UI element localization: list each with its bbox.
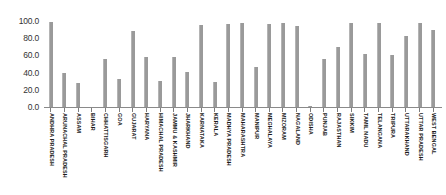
x-axis-label: UTTAR PRADESH <box>417 113 422 161</box>
x-axis-label: TRIPURA <box>390 113 395 138</box>
bar <box>308 106 312 107</box>
bar-slot <box>58 21 72 107</box>
plot-area <box>44 21 440 107</box>
x-axis-label-slot: GOA <box>112 112 126 194</box>
bar <box>62 73 66 107</box>
x-axis-label: WEST BENGAL <box>431 113 436 154</box>
bar-series <box>44 21 440 107</box>
x-axis-label-slot: BIHAR <box>85 112 99 194</box>
bar <box>349 23 353 107</box>
x-axis-label: JAMMU & KASHMIR <box>171 113 176 167</box>
x-axis-label: ANDHRA PRADESH <box>48 113 53 166</box>
x-axis-label-slot: NAGALAND <box>290 112 304 194</box>
bar-slot <box>44 21 58 107</box>
x-axis-label-slot: JHARKHAND <box>181 112 195 194</box>
bar <box>418 23 422 107</box>
x-axis-label-slot: TELANGANA <box>372 112 386 194</box>
bar <box>144 57 148 107</box>
x-axis-label: ODISHA <box>308 113 313 135</box>
x-axis-label-slot: GUJARAT <box>126 112 140 194</box>
x-axis-label: HARYANA <box>144 113 149 140</box>
x-axis-label-slot: ODISHA <box>303 112 317 194</box>
x-axis-label: MIZORAM <box>280 113 285 140</box>
bar <box>404 36 408 107</box>
x-axis-label: RAJASTHAN <box>335 113 340 148</box>
bar-slot <box>317 21 331 107</box>
x-axis-label-slot: HIMACHAL PRADESH <box>153 112 167 194</box>
x-axis-label-slot: WEST BENGAL <box>426 112 440 194</box>
bar-slot <box>276 21 290 107</box>
bar-slot <box>167 21 181 107</box>
bar-slot <box>263 21 277 107</box>
x-axis-label-slot: PUNJAB <box>317 112 331 194</box>
bar-slot <box>385 21 399 107</box>
bar-slot <box>112 21 126 107</box>
bar-chart: 0.020.040.060.080.0100.0 ANDHRA PRADESHA… <box>0 0 446 195</box>
bar <box>281 23 285 107</box>
bar <box>322 59 326 107</box>
x-axis-label: ASSAM <box>75 113 80 133</box>
bar <box>172 57 176 107</box>
bar <box>336 47 340 107</box>
bar-slot <box>85 21 99 107</box>
x-axis-label-slot: HARYANA <box>140 112 154 194</box>
bar <box>131 31 135 107</box>
x-axis-label: BIHAR <box>89 113 94 131</box>
bar <box>117 79 121 107</box>
x-axis-label-slot: MAHARASHTRA <box>235 112 249 194</box>
x-axis-label: HIMACHAL PRADESH <box>157 113 162 172</box>
y-axis-tick-label: 80.0 <box>23 34 39 43</box>
y-axis-tick-label: 0.0 <box>28 103 39 112</box>
x-axis-label-slot: UTTARAKHAND <box>399 112 413 194</box>
bar <box>213 82 217 107</box>
y-axis-tick-label: 60.0 <box>23 51 39 60</box>
bar-slot <box>235 21 249 107</box>
bar-slot <box>344 21 358 107</box>
bar-slot <box>413 21 427 107</box>
bar-slot <box>399 21 413 107</box>
bar <box>240 23 244 107</box>
bar <box>226 24 230 107</box>
x-axis-label-slot: CHHATTISGARH <box>99 112 113 194</box>
bar <box>363 54 367 107</box>
x-axis-label-slot: MIZORAM <box>276 112 290 194</box>
bar-slot <box>181 21 195 107</box>
bar-slot <box>99 21 113 107</box>
x-axis-label: JHARKHAND <box>185 113 190 149</box>
x-axis-label-slot: ARUNACHAL PRADESH <box>58 112 72 194</box>
y-axis-tick-label: 20.0 <box>23 86 39 95</box>
x-axis-label-slot: KERALA <box>208 112 222 194</box>
bar-slot <box>126 21 140 107</box>
x-axis-label-slot: KARNATAKA <box>194 112 208 194</box>
x-axis-label: TELANGANA <box>376 113 381 148</box>
bar-slot <box>194 21 208 107</box>
bar-slot <box>249 21 263 107</box>
bar <box>377 23 381 107</box>
bar <box>49 22 53 107</box>
x-axis-label: UTTARAKHAND <box>403 113 408 156</box>
bar-slot <box>358 21 372 107</box>
x-axis-label-slot: MADHYA PRADESH <box>222 112 236 194</box>
bar-slot <box>71 21 85 107</box>
bar <box>158 81 162 107</box>
bar-slot <box>140 21 154 107</box>
x-axis-label-slot: ANDHRA PRADESH <box>44 112 58 194</box>
bar <box>254 67 258 107</box>
bar-slot <box>372 21 386 107</box>
bar-slot <box>290 21 304 107</box>
x-axis-label-slot: TAMIL NADU <box>358 112 372 194</box>
x-axis-label: TAMIL NADU <box>362 113 367 148</box>
x-axis-labels: ANDHRA PRADESHARUNACHAL PRADESHASSAMBIHA… <box>44 112 440 194</box>
x-axis-label: CHHATTISGARH <box>103 113 108 158</box>
x-axis-label-slot: UTTAR PRADESH <box>413 112 427 194</box>
bar-slot <box>153 21 167 107</box>
bar <box>76 83 80 107</box>
x-axis-label: SIKKIM <box>349 113 354 133</box>
x-axis-label: MANIPUR <box>253 113 258 139</box>
bar <box>103 59 107 107</box>
bar <box>267 24 271 107</box>
x-axis-label: MAHARASHTRA <box>239 113 244 157</box>
x-axis-label-slot: MEGHALAYA <box>263 112 277 194</box>
x-axis-label: NAGALAND <box>294 113 299 145</box>
bar-slot <box>303 21 317 107</box>
